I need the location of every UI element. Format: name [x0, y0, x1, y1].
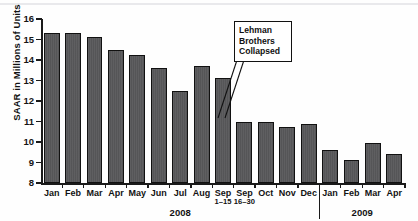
bar — [44, 33, 60, 183]
x-axis-sublabel: 16–30 — [230, 197, 259, 206]
y-axis-tick — [36, 59, 42, 60]
annotation-lehman-brothers-collapsed: Lehman Brothers Collapsed — [234, 21, 292, 62]
bar — [344, 160, 360, 183]
bar — [108, 50, 124, 183]
y-axis-tick-label: 10 — [18, 137, 34, 147]
bar — [258, 122, 274, 184]
y-axis-tick — [36, 39, 42, 40]
saar-bar-chart: SAAR in Millions of Units 16151413121110… — [0, 0, 418, 221]
bar — [194, 66, 210, 183]
y-axis-tick — [36, 100, 42, 101]
bar — [65, 33, 81, 183]
x-axis-label: Apr — [381, 188, 408, 198]
year-label: 2008 — [41, 207, 319, 218]
annotation-line-1: Lehman — [239, 25, 287, 36]
y-axis-tick-label: 11 — [18, 117, 34, 127]
top-divider-rule — [0, 3, 418, 5]
y-axis-tick-label: 15 — [18, 35, 34, 45]
y-axis-tick — [36, 141, 42, 142]
y-axis-tick — [36, 121, 42, 122]
bar — [129, 55, 145, 183]
y-axis-tick-label: 13 — [18, 76, 34, 86]
annotation-line-3: Collapsed — [239, 46, 287, 57]
bar — [279, 127, 295, 183]
bar — [215, 78, 231, 183]
bar — [151, 68, 167, 183]
y-axis-tick — [36, 182, 42, 183]
bar — [87, 37, 103, 183]
y-axis-tick-label: 16 — [18, 14, 34, 24]
y-axis-tick-label: 8 — [18, 178, 34, 188]
year-group-divider — [319, 184, 320, 219]
y-axis-tick — [36, 18, 42, 19]
bar — [386, 154, 402, 183]
annotation-line-2: Brothers — [239, 36, 287, 47]
x-axis-line — [41, 183, 405, 185]
y-axis-tick-label: 12 — [18, 96, 34, 106]
bar — [236, 122, 252, 184]
bar — [322, 150, 338, 183]
y-axis-tick — [36, 80, 42, 81]
bar — [301, 124, 317, 183]
bar — [172, 91, 188, 183]
y-axis-tick — [36, 162, 42, 163]
y-axis-tick-label: 9 — [18, 158, 34, 168]
y-axis-tick-label: 14 — [18, 55, 34, 65]
year-label: 2009 — [319, 207, 405, 218]
bar — [365, 143, 381, 183]
